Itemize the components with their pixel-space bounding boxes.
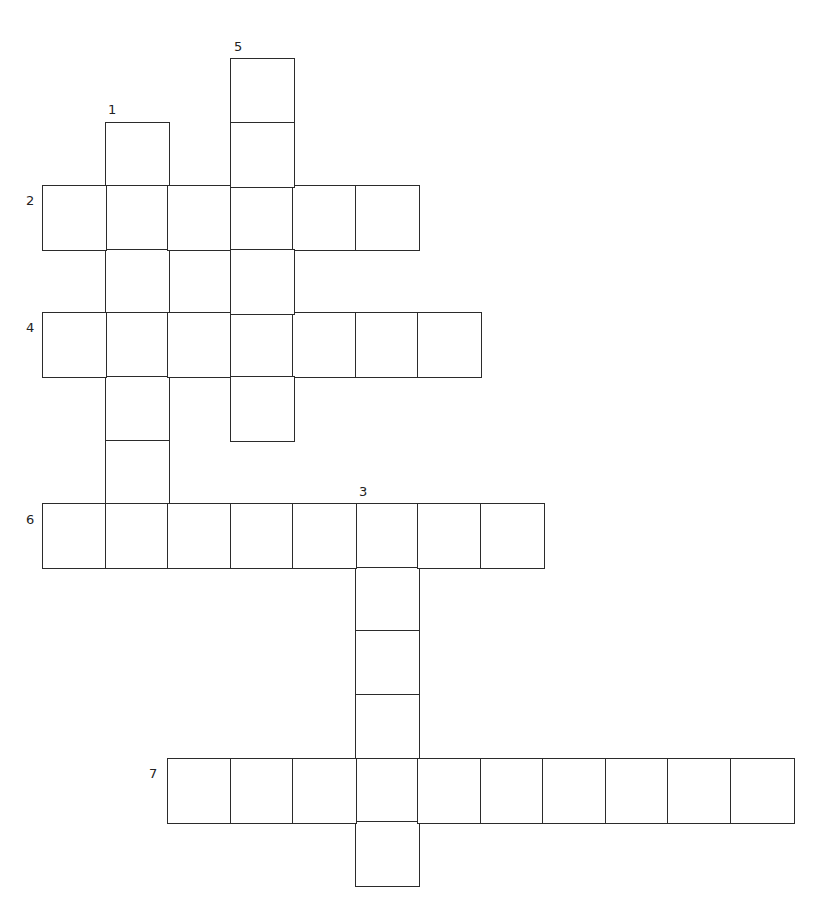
- crossword-cell[interactable]: [167, 758, 232, 824]
- crossword-cell[interactable]: [167, 185, 232, 251]
- crossword-cell[interactable]: [230, 185, 295, 251]
- crossword-cell[interactable]: [355, 312, 420, 378]
- crossword-cell[interactable]: [42, 185, 107, 251]
- crossword-cell[interactable]: [292, 312, 357, 378]
- crossword-cell[interactable]: [292, 185, 357, 251]
- crossword-grid: 1234567: [0, 0, 825, 915]
- crossword-cell[interactable]: [105, 122, 170, 188]
- crossword-cell[interactable]: [480, 758, 545, 824]
- crossword-cell[interactable]: [417, 312, 482, 378]
- crossword-cell[interactable]: [667, 758, 732, 824]
- crossword-cell[interactable]: [42, 312, 107, 378]
- crossword-cell[interactable]: [355, 821, 420, 887]
- crossword-cell[interactable]: [730, 758, 795, 824]
- crossword-cell[interactable]: [105, 312, 170, 378]
- crossword-cell[interactable]: [355, 630, 420, 696]
- crossword-cell[interactable]: [480, 503, 545, 569]
- clue-number-5: 5: [234, 40, 242, 53]
- crossword-cell[interactable]: [355, 567, 420, 633]
- crossword-cell[interactable]: [105, 503, 170, 569]
- crossword-cell[interactable]: [105, 376, 170, 442]
- crossword-cell[interactable]: [230, 376, 295, 442]
- crossword-cell[interactable]: [105, 185, 170, 251]
- crossword-cell[interactable]: [355, 694, 420, 760]
- crossword-cell[interactable]: [292, 758, 357, 824]
- crossword-cell[interactable]: [542, 758, 607, 824]
- crossword-cell[interactable]: [105, 249, 170, 315]
- crossword-cell[interactable]: [230, 312, 295, 378]
- clue-number-3: 3: [359, 485, 367, 498]
- crossword-cell[interactable]: [230, 58, 295, 124]
- crossword-cell[interactable]: [417, 503, 482, 569]
- crossword-cell[interactable]: [355, 758, 420, 824]
- crossword-cell[interactable]: [355, 185, 420, 251]
- crossword-cell[interactable]: [230, 758, 295, 824]
- crossword-cell[interactable]: [105, 440, 170, 506]
- crossword-cell[interactable]: [230, 503, 295, 569]
- crossword-cell[interactable]: [355, 503, 420, 569]
- clue-number-6: 6: [26, 513, 34, 526]
- crossword-cell[interactable]: [42, 503, 107, 569]
- clue-number-1: 1: [108, 103, 116, 116]
- crossword-cell[interactable]: [292, 503, 357, 569]
- crossword-cell[interactable]: [230, 249, 295, 315]
- crossword-cell[interactable]: [167, 312, 232, 378]
- clue-number-2: 2: [26, 194, 34, 207]
- crossword-cell[interactable]: [167, 503, 232, 569]
- crossword-cell[interactable]: [417, 758, 482, 824]
- crossword-cell[interactable]: [605, 758, 670, 824]
- crossword-cell[interactable]: [230, 122, 295, 188]
- clue-number-4: 4: [26, 321, 34, 334]
- clue-number-7: 7: [149, 767, 157, 780]
